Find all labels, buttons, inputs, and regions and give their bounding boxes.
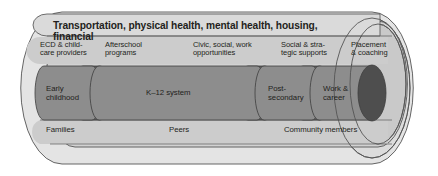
support-label-placement-coaching: Placement & coaching [351,41,407,58]
pipe-label-work-career: Work & career [323,85,369,102]
pipe-label-post-secondary: Post- secondary [268,85,316,102]
diagram-canvas: Transportation, physical health, mental … [0,0,438,176]
support-label-ecd-childcare: ECD & child- care providers [40,41,104,58]
base-label-community-members: Community members [284,126,394,135]
base-label-peers: Peers [169,126,229,135]
support-label-civic-social-work: Civic, social, work opportunities [193,41,279,58]
pipe-label-early-childhood: Early childhood [46,85,90,102]
pipe-label-k12-system: K–12 system [146,89,226,98]
base-label-families: Families [46,126,106,135]
support-label-social-strategic: Social & stra- tegic supports [281,41,349,58]
support-label-afterschool: Afterschool programs [105,41,167,58]
